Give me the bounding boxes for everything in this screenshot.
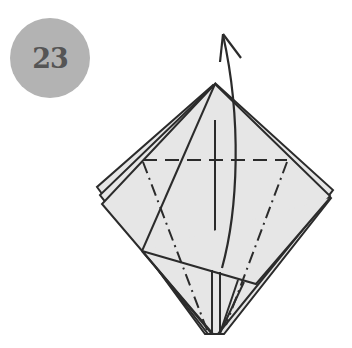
origami-diagram: [0, 0, 352, 348]
arrow-head-left: [220, 34, 223, 62]
